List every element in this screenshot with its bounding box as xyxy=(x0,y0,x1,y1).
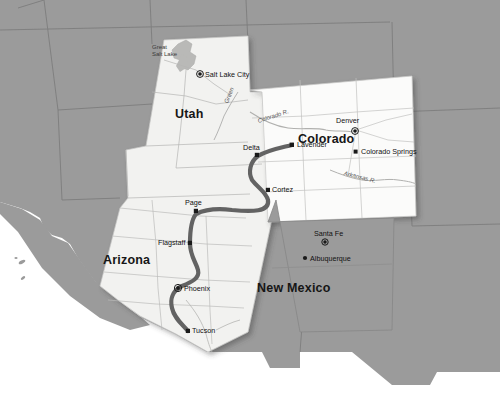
island-marker xyxy=(18,259,26,265)
marker-colorado-springs[interactable] xyxy=(354,150,358,154)
marker-delta[interactable] xyxy=(255,153,259,157)
marker-albuquerque[interactable] xyxy=(303,256,307,260)
marker-page[interactable] xyxy=(194,209,198,213)
map-container[interactable]: Utah Colorado Arizona New Mexico Salt La… xyxy=(0,0,500,411)
map-canvas[interactable] xyxy=(0,0,500,411)
marker-cortez[interactable] xyxy=(266,188,270,192)
marker-tucson[interactable] xyxy=(186,329,190,333)
island-marker xyxy=(14,257,17,259)
island-marker xyxy=(20,275,26,280)
marker-lavender[interactable] xyxy=(290,143,294,147)
marker-flagstaff[interactable] xyxy=(188,241,192,245)
